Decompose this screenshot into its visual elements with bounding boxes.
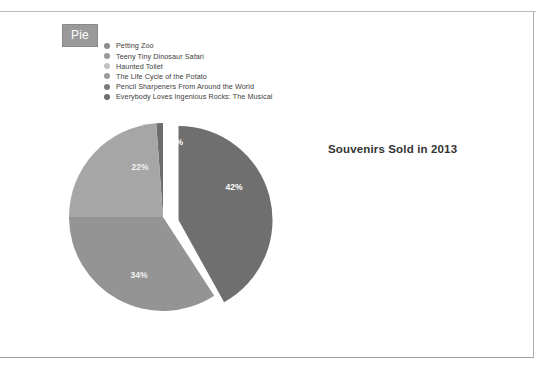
pie-chart-plot-area: 42% 22% 34% 2%	[60, 118, 320, 338]
legend-item-label: Petting Zoo	[116, 41, 154, 50]
page-frame-bottom-rule	[0, 357, 534, 358]
legend-item-label: Teeny Tiny Dinosaur Safari	[116, 52, 204, 61]
chart-title: Souvenirs Sold in 2013	[328, 143, 457, 155]
legend-item-the-life-cycle-of-the-potato[interactable]: The Life Cycle of the Potato	[104, 72, 334, 82]
legend-swatch-icon	[104, 94, 110, 100]
chart-type-tab-pie[interactable]: Pie	[62, 24, 98, 47]
legend-item-haunted-toilet[interactable]: Haunted Toilet	[104, 61, 334, 71]
legend-item-pencil-sharpeners-from-around-the-world[interactable]: Pencil Sharpeners From Around the World	[104, 82, 334, 92]
legend-item-petting-zoo[interactable]: Petting Zoo	[104, 41, 334, 51]
pie-chart-svg: 42% 22% 34% 2%	[60, 118, 320, 338]
legend-item-teeny-tiny-dinosaur-safari[interactable]: Teeny Tiny Dinosaur Safari	[104, 51, 334, 61]
pie-slice-label-2: 2%	[171, 137, 184, 147]
legend-swatch-icon	[104, 84, 110, 90]
legend-item-label: The Life Cycle of the Potato	[116, 72, 207, 81]
legend-item-everybody-loves-ingenious-rocks-the-musical[interactable]: Everybody Loves Ingenious Rocks: The Mus…	[104, 92, 334, 102]
legend-swatch-icon	[104, 73, 110, 79]
legend-item-label: Pencil Sharpeners From Around the World	[116, 82, 254, 91]
page-frame-top-rule	[0, 11, 536, 12]
legend-item-label: Everybody Loves Ingenious Rocks: The Mus…	[116, 92, 272, 101]
legend-item-label: Haunted Toilet	[116, 62, 163, 71]
pie-slice-label-42: 42%	[225, 182, 242, 192]
legend-swatch-icon	[104, 43, 110, 49]
pie-slice-the-life-cycle-of-the-potato[interactable]	[69, 123, 163, 217]
pie-slice-label-22: 22%	[131, 162, 148, 172]
legend-swatch-icon	[104, 63, 110, 69]
legend-swatch-icon	[104, 53, 110, 59]
pie-slice-label-34: 34%	[130, 270, 147, 280]
page-frame-right-rule	[533, 11, 534, 358]
chart-legend: Petting Zoo Teeny Tiny Dinosaur Safari H…	[104, 41, 334, 102]
